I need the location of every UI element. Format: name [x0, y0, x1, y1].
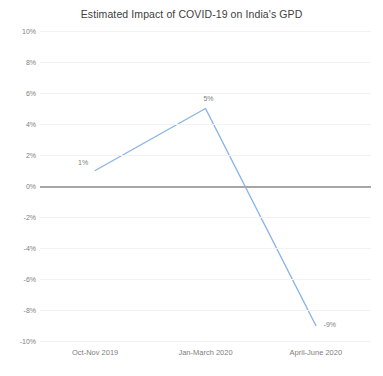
data-point-label: -9%: [324, 320, 336, 327]
y-axis-tick-label: 8%: [2, 59, 36, 66]
data-point-label: 1%: [78, 158, 88, 165]
chart-container: Estimated Impact of COVID-19 on India's …: [0, 0, 383, 376]
y-axis: 10%8%6%4%2%0%-2%-4%-6%-8%-10%: [0, 31, 36, 341]
zero-axis-line: [40, 186, 371, 188]
gridline: [40, 31, 371, 32]
y-axis-tick-label: 0%: [2, 183, 36, 190]
x-axis-tick-label: Oct-Nov 2019: [72, 348, 118, 357]
gridline: [40, 155, 371, 156]
x-axis-tick-label: Jan-March 2020: [178, 348, 232, 357]
chart-title: Estimated Impact of COVID-19 on India's …: [0, 8, 383, 20]
gridline: [40, 217, 371, 218]
y-axis-tick-label: 6%: [2, 90, 36, 97]
gridline: [40, 248, 371, 249]
gridline: [40, 279, 371, 280]
y-axis-tick-label: 4%: [2, 121, 36, 128]
y-axis-tick-label: -10%: [2, 338, 36, 345]
gridline: [40, 310, 371, 311]
y-axis-tick-label: 2%: [2, 152, 36, 159]
x-axis-tick-label: April-June 2020: [290, 348, 343, 357]
data-point-label: 5%: [203, 94, 213, 101]
y-axis-tick-label: -8%: [2, 307, 36, 314]
plot-area: 1%5%-9%: [40, 31, 371, 341]
y-axis-tick-label: -4%: [2, 245, 36, 252]
y-axis-tick-label: -2%: [2, 214, 36, 221]
y-axis-tick-label: -6%: [2, 276, 36, 283]
gridline: [40, 124, 371, 125]
gridline: [40, 62, 371, 63]
y-axis-tick-label: 10%: [2, 28, 36, 35]
gridline: [40, 341, 371, 342]
x-axis: Oct-Nov 2019Jan-March 2020April-June 202…: [40, 348, 371, 364]
